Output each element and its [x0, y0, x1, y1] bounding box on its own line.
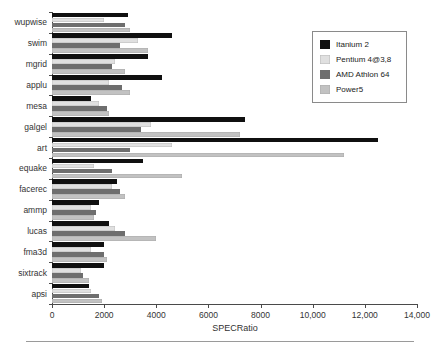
bar: [52, 127, 141, 132]
legend-label: AMD Athlon 64: [336, 70, 389, 79]
bar: [52, 189, 120, 194]
legend-item[interactable]: Itanium 2: [320, 38, 400, 51]
bar: [52, 294, 99, 299]
bar: [52, 85, 122, 90]
legend-swatch: [320, 40, 330, 49]
footer-divider: [26, 341, 414, 342]
bar: [52, 23, 125, 28]
bar: [52, 268, 81, 273]
bar-group: facerec: [52, 179, 417, 200]
x-axis-tick-label: 8000: [251, 310, 270, 320]
bar-group: fma3d: [52, 241, 417, 262]
category-label: fma3d: [23, 248, 47, 257]
bar: [52, 101, 99, 106]
bar: [52, 200, 99, 205]
bar: [52, 148, 130, 153]
legend-label: Power5: [336, 85, 363, 94]
category-label: applu: [26, 81, 47, 90]
bar: [52, 138, 378, 143]
legend-item[interactable]: Power5: [320, 83, 400, 96]
bar-group: equake: [52, 158, 417, 179]
bar: [52, 54, 148, 59]
bar: [52, 90, 130, 95]
x-axis-tick-label: 12,000: [352, 310, 378, 320]
legend-item[interactable]: AMD Athlon 64: [320, 68, 400, 81]
bar: [52, 184, 112, 189]
bar: [52, 299, 102, 304]
bar: [52, 174, 182, 179]
x-axis-tick-label: 10,000: [300, 310, 326, 320]
bar: [52, 273, 83, 278]
bar: [52, 75, 162, 80]
bar-group: lucas: [52, 221, 417, 242]
x-axis-tick-label: 14,000: [404, 310, 430, 320]
x-axis-tick: [208, 304, 209, 308]
category-label: mgrid: [26, 60, 47, 69]
bar: [52, 215, 94, 220]
bar: [52, 69, 125, 74]
category-label: equake: [19, 164, 47, 173]
legend-swatch: [320, 70, 330, 79]
bar: [52, 221, 109, 226]
bar: [52, 64, 112, 69]
bar: [52, 48, 148, 53]
legend-swatch: [320, 85, 330, 94]
bar: [52, 289, 91, 294]
bar: [52, 106, 107, 111]
bar: [52, 143, 172, 148]
bar: [52, 252, 104, 257]
bar: [52, 236, 156, 241]
legend-label: Itanium 2: [336, 40, 369, 49]
bar: [52, 111, 109, 116]
bar: [52, 153, 344, 158]
bar: [52, 43, 120, 48]
bar: [52, 59, 115, 64]
x-axis-tick-label: 6000: [199, 310, 218, 320]
category-label: galgel: [24, 123, 47, 132]
bar-group: galgel: [52, 116, 417, 137]
bar: [52, 194, 125, 199]
x-axis-tick-label: 2000: [95, 310, 114, 320]
bar-group: art: [52, 137, 417, 158]
bar: [52, 13, 128, 18]
x-axis-tick: [261, 304, 262, 308]
category-label: sixtrack: [18, 269, 47, 278]
legend-label: Pentium 4@3,8: [336, 55, 391, 64]
bar: [52, 179, 117, 184]
category-label: ammp: [23, 206, 47, 215]
bar: [52, 242, 104, 247]
bar: [52, 38, 138, 43]
bar: [52, 117, 245, 122]
category-label: swim: [28, 39, 47, 48]
category-label: art: [37, 144, 47, 153]
x-axis-tick: [313, 304, 314, 308]
bar: [52, 164, 94, 169]
x-axis-tick: [104, 304, 105, 308]
bar: [52, 210, 96, 215]
chart-figure: wupwiseswimmgridapplumesagalgelartequake…: [0, 0, 440, 352]
bar: [52, 257, 107, 262]
category-label: wupwise: [14, 18, 47, 27]
bar: [52, 284, 89, 289]
bar: [52, 33, 172, 38]
bar: [52, 132, 240, 137]
bar: [52, 278, 89, 283]
x-axis-tick: [52, 304, 53, 308]
x-axis-tick-label: 4000: [147, 310, 166, 320]
bar-group: ammp: [52, 200, 417, 221]
chart-legend: Itanium 2Pentium 4@3,8AMD Athlon 64Power…: [312, 31, 407, 103]
category-label: facerec: [19, 185, 47, 194]
bar: [52, 169, 112, 174]
bar: [52, 28, 130, 33]
x-axis-tick-label: 0: [50, 310, 55, 320]
category-label: lucas: [27, 227, 47, 236]
legend-swatch: [320, 55, 330, 64]
bar: [52, 263, 104, 268]
bar: [52, 159, 143, 164]
bar: [52, 122, 151, 127]
legend-item[interactable]: Pentium 4@3,8: [320, 53, 400, 66]
x-axis-line: [52, 304, 418, 305]
category-label: apsi: [31, 290, 47, 299]
x-axis-tick: [156, 304, 157, 308]
bar: [52, 231, 125, 236]
